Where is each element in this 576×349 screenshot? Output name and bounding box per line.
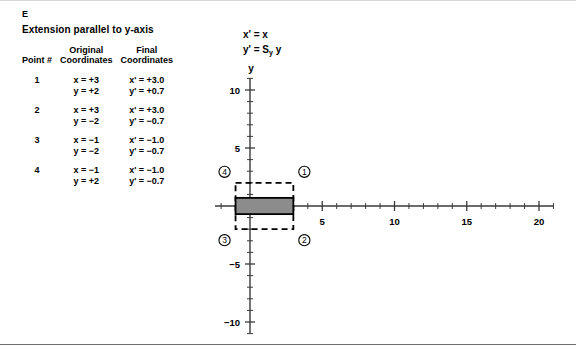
header-final-bottom: Coordinates — [121, 55, 174, 65]
point-marker-3: 3 — [219, 235, 230, 246]
y-axis-tick-label: −5 — [229, 259, 241, 270]
row-final-x: x' = +3.0 — [121, 105, 174, 116]
figure-panel: E Extension parallel to y-axis x' = x y'… — [0, 0, 576, 349]
row-final-x: x' = +3.0 — [121, 75, 174, 86]
header-original-top: Original — [60, 45, 113, 55]
header-original: Original Coordinates — [56, 45, 117, 67]
x-axis-tick-label: 5 — [320, 216, 326, 227]
point-marker-2: 2 — [299, 235, 310, 246]
y-axis-label: y — [248, 63, 254, 74]
row-original-x: x = −1 — [60, 165, 113, 176]
row-final-y: y' = −0.7 — [121, 146, 174, 157]
panel-title: Extension parallel to y-axis — [22, 24, 154, 35]
header-point: Point # — [18, 45, 56, 67]
row-original-y: y = −2 — [60, 146, 113, 157]
x-axis-tick-label: 15 — [461, 216, 472, 227]
point-marker-label: 2 — [302, 235, 307, 245]
y-axis-tick-label: 10 — [229, 85, 240, 96]
transformed-rectangle — [236, 198, 294, 214]
table-row: 2 x = +3 y = −2 x' = +3.0 y' = −0.7 — [18, 97, 177, 127]
row-original-x: x = +3 — [60, 75, 113, 86]
row-final-y: y' = +0.7 — [121, 86, 174, 97]
point-marker-1: 1 — [299, 166, 310, 177]
table-row: 1 x = +3 y = +2 x' = +3.0 y' = +0.7 — [18, 67, 177, 97]
x-axis-tick-label: 20 — [534, 216, 545, 227]
point-marker-label: 4 — [222, 167, 227, 177]
equation-y-suffix: y — [273, 44, 281, 55]
header-final: Final Coordinates — [117, 45, 178, 67]
header-original-bottom: Coordinates — [60, 55, 113, 65]
table-header-row: Point # Original Coordinates Final Coord… — [18, 45, 177, 67]
equation-x: x' = x — [243, 28, 281, 43]
row-point-number: 2 — [18, 97, 56, 127]
header-final-top: Final — [121, 45, 174, 55]
point-marker-4: 4 — [219, 166, 230, 177]
row-original-y: y = +2 — [60, 176, 113, 187]
equation-y: y' = Sy y — [243, 43, 281, 58]
bottom-divider — [0, 344, 576, 345]
row-original-x: x = −1 — [60, 135, 113, 146]
row-final-coordinates: x' = +3.0 y' = +0.7 — [117, 67, 178, 97]
row-point-number: 4 — [18, 157, 56, 187]
row-point-number: 3 — [18, 127, 56, 157]
y-axis-tick-label: 5 — [235, 143, 241, 154]
row-final-y: y' = −0.7 — [121, 176, 174, 187]
row-original-coordinates: x = +3 y = −2 — [56, 97, 117, 127]
row-original-coordinates: x = −1 y = −2 — [56, 127, 117, 157]
table-row: 4 x = −1 y = +2 x' = −1.0 y' = −0.7 — [18, 157, 177, 187]
point-marker-label: 3 — [222, 235, 227, 245]
table-row: 3 x = −1 y = −2 x' = −1.0 y' = −0.7 — [18, 127, 177, 157]
row-final-x: x' = −1.0 — [121, 165, 174, 176]
header-point-label: Point # — [22, 55, 52, 65]
row-final-coordinates: x' = +3.0 y' = −0.7 — [117, 97, 178, 127]
plot-svg: −55101520x−10−5510y1234 — [215, 58, 560, 338]
row-original-y: y = −2 — [60, 116, 113, 127]
row-original-coordinates: x = +3 y = +2 — [56, 67, 117, 97]
x-axis-tick-label: 10 — [389, 216, 400, 227]
row-final-x: x' = −1.0 — [121, 135, 174, 146]
panel-letter: E — [22, 9, 28, 19]
row-original-coordinates: x = −1 y = +2 — [56, 157, 117, 187]
row-final-y: y' = −0.7 — [121, 116, 174, 127]
coordinates-table: Point # Original Coordinates Final Coord… — [18, 45, 177, 187]
row-final-coordinates: x' = −1.0 y' = −0.7 — [117, 157, 178, 187]
row-point-number: 1 — [18, 67, 56, 97]
row-original-y: y = +2 — [60, 86, 113, 97]
row-original-x: x = +3 — [60, 105, 113, 116]
row-final-coordinates: x' = −1.0 y' = −0.7 — [117, 127, 178, 157]
transformation-equations: x' = x y' = Sy y — [243, 28, 281, 58]
coordinate-plot: −55101520x−10−5510y1234 — [215, 58, 560, 338]
equation-y-prefix: y' = S — [243, 44, 269, 55]
point-marker-label: 1 — [302, 167, 307, 177]
top-divider — [0, 0, 576, 1]
y-axis-tick-label: −10 — [224, 317, 240, 328]
